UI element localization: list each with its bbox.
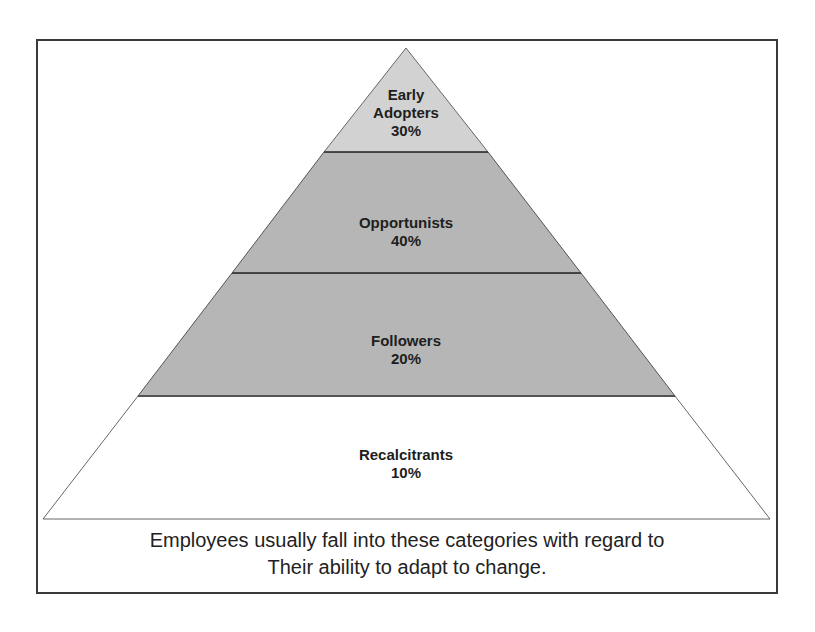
tier-opportunists-shape [232, 152, 581, 273]
tier-name-line1: Early [373, 86, 439, 104]
tier-early-adopters-label: Early Adopters 30% [373, 86, 439, 140]
tier-percent: 20% [371, 350, 441, 368]
tier-percent: 40% [359, 232, 453, 250]
tier-recalcitrants-label: Recalcitrants 10% [359, 446, 453, 482]
caption-line2: Their ability to adapt to change. [38, 554, 776, 581]
caption-line1: Employees usually fall into these catego… [38, 527, 776, 554]
tier-name: Recalcitrants [359, 446, 453, 464]
diagram-caption: Employees usually fall into these catego… [38, 527, 776, 581]
tier-name: Followers [371, 332, 441, 350]
tier-name: Opportunists [359, 214, 453, 232]
tier-name-line2: Adopters [373, 104, 439, 122]
tier-followers-label: Followers 20% [371, 332, 441, 368]
tier-percent: 30% [373, 122, 439, 140]
tier-percent: 10% [359, 464, 453, 482]
tier-opportunists-label: Opportunists 40% [359, 214, 453, 250]
